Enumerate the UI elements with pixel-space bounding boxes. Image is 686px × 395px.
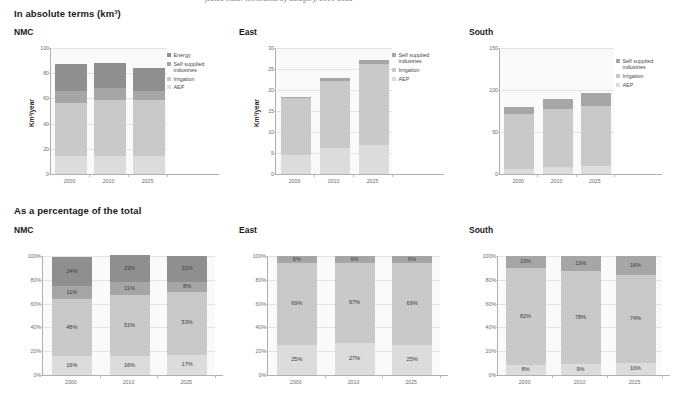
bar-segment-self-supplied-industries[interactable] (320, 78, 350, 81)
bar-segment-aep[interactable] (94, 156, 126, 174)
bar-segment-irrigation[interactable]: 53% (167, 292, 207, 355)
bar-segment-aep[interactable] (320, 148, 350, 174)
bar-2025[interactable] (359, 60, 389, 174)
bar-segment-self-supplied-industries[interactable]: 10% (506, 256, 546, 268)
x-axis-tick-label: 2010 (328, 178, 340, 184)
bar-segment-self-supplied-industries[interactable]: 13% (561, 256, 601, 271)
bar-2010[interactable] (543, 99, 573, 174)
bar-segment-irrigation[interactable] (281, 98, 311, 154)
bar-segment-self-supplied-industries[interactable] (359, 60, 389, 64)
y-axis-tick-mark (496, 256, 499, 257)
bar-segment-energy[interactable]: 22% (167, 256, 207, 282)
bar-segment-self-supplied-industries[interactable]: 6% (335, 256, 375, 263)
bar-segment-aep[interactable]: 10% (616, 363, 656, 375)
bar-segment-aep[interactable]: 25% (392, 345, 432, 375)
bar-segment-self-supplied-industries[interactable]: 11% (110, 282, 150, 295)
y-axis-tick-mark (498, 90, 501, 91)
bar-2000[interactable]: 16%48%11%24% (52, 257, 92, 375)
bar-segment-energy[interactable] (55, 64, 87, 92)
x-axis-tick-mark (607, 375, 608, 378)
legend-item-aep[interactable]: AEP (167, 84, 214, 90)
bar-segment-irrigation[interactable]: 69% (277, 263, 317, 345)
x-axis-tick-label: 2010 (123, 379, 135, 385)
bar-segment-self-supplied-industries[interactable] (543, 99, 573, 109)
bar-segment-aep[interactable]: 9% (561, 364, 601, 375)
bar-segment-self-supplied-industries[interactable]: 11% (52, 286, 92, 299)
bar-segment-irrigation[interactable] (581, 106, 611, 166)
bar-2010[interactable]: 16%51%11%23% (110, 255, 150, 375)
bar-segment-aep[interactable]: 16% (52, 356, 92, 375)
bar-2025[interactable] (133, 68, 165, 174)
bar-segment-energy[interactable] (94, 63, 126, 88)
bar-segment-self-supplied-industries[interactable] (504, 107, 534, 114)
bar-segment-irrigation[interactable]: 51% (110, 295, 150, 356)
bar-segment-energy[interactable] (133, 68, 165, 91)
legend-item-self-supplied-industries[interactable]: Self supplied industries (392, 52, 439, 64)
bar-segment-value-label: 16% (124, 363, 135, 369)
legend-item-aep[interactable]: AEP (392, 76, 439, 82)
bar-segment-self-supplied-industries[interactable] (94, 88, 126, 100)
bar-segment-aep[interactable]: 8% (506, 365, 546, 375)
bar-segment-aep[interactable] (581, 166, 611, 174)
bar-2010[interactable] (94, 63, 126, 174)
bar-2000[interactable]: 8%82%10% (506, 256, 546, 375)
bar-2025[interactable]: 10%74%16% (616, 256, 656, 375)
bar-segment-irrigation[interactable]: 67% (335, 263, 375, 343)
bar-2025[interactable]: 25%69%6% (392, 256, 432, 375)
bar-segment-energy[interactable]: 24% (52, 257, 92, 286)
bar-segment-aep[interactable]: 16% (110, 356, 150, 375)
bar-segment-irrigation[interactable] (94, 100, 126, 156)
bar-segment-aep[interactable] (359, 145, 389, 174)
bar-segment-irrigation[interactable]: 74% (616, 275, 656, 363)
bar-segment-energy[interactable]: 23% (110, 255, 150, 282)
bar-segment-aep[interactable]: 25% (277, 345, 317, 375)
bar-segment-irrigation[interactable] (133, 100, 165, 156)
bar-2010[interactable]: 27%67%6% (335, 256, 375, 375)
bar-segment-self-supplied-industries[interactable] (55, 91, 87, 103)
legend-item-energy[interactable]: Energy (167, 52, 214, 58)
bar-segment-irrigation[interactable]: 69% (392, 263, 432, 345)
bar-2025[interactable] (581, 93, 611, 174)
panel-title-east-percentage: East (239, 225, 257, 235)
x-axis-line (50, 174, 219, 175)
bar-segment-aep[interactable]: 27% (335, 343, 375, 375)
legend-item-irrigation[interactable]: Irrigation (392, 67, 439, 73)
legend-item-self-supplied-industries[interactable]: Self supplied industries (167, 61, 214, 73)
bar-2010[interactable]: 9%78%13% (561, 256, 601, 375)
x-axis-tick-mark (440, 375, 441, 378)
bar-2000[interactable]: 25%69%6% (277, 256, 317, 375)
bar-segment-self-supplied-industries[interactable]: 16% (616, 256, 656, 275)
bar-segment-irrigation[interactable] (320, 81, 350, 148)
legend-item-irrigation[interactable]: Irrigation (167, 76, 214, 82)
bar-segment-aep[interactable]: 17% (167, 355, 207, 375)
bar-2000[interactable] (504, 107, 534, 174)
bar-2025[interactable]: 17%53%8%22% (167, 256, 207, 375)
bar-2000[interactable] (281, 97, 311, 174)
bar-segment-irrigation[interactable]: 48% (52, 299, 92, 356)
bar-segment-self-supplied-industries[interactable]: 6% (277, 256, 317, 263)
legend-item-self-supplied-industries[interactable]: Self supplied industries (616, 58, 663, 70)
bar-segment-irrigation[interactable]: 78% (561, 271, 601, 364)
bar-segment-irrigation[interactable] (504, 114, 534, 169)
bar-segment-self-supplied-industries[interactable] (133, 91, 165, 100)
bar-segment-irrigation[interactable] (359, 64, 389, 146)
bar-segment-self-supplied-industries[interactable] (281, 97, 311, 99)
y-axis-tick-mark (41, 304, 44, 305)
bar-segment-self-supplied-industries[interactable]: 8% (167, 282, 207, 292)
bar-2010[interactable] (320, 78, 350, 174)
bar-segment-self-supplied-industries[interactable]: 6% (392, 256, 432, 263)
legend-item-irrigation[interactable]: Irrigation (616, 73, 663, 79)
bar-segment-aep[interactable] (133, 156, 165, 174)
bar-segment-value-label: 23% (124, 266, 135, 272)
bar-segment-irrigation[interactable] (543, 109, 573, 167)
bar-segment-irrigation[interactable] (55, 103, 87, 156)
bar-2000[interactable] (55, 64, 87, 174)
bar-segment-aep[interactable] (55, 156, 87, 174)
bar-segment-self-supplied-industries[interactable] (581, 93, 611, 106)
legend-item-aep[interactable]: AEP (616, 82, 663, 88)
bar-segment-aep[interactable] (281, 155, 311, 174)
bar-segment-irrigation[interactable]: 82% (506, 268, 546, 366)
bar-segment-aep[interactable] (543, 167, 573, 174)
legend-swatch-self-supplied-industries (392, 53, 396, 57)
x-axis-tick-label: 2000 (290, 379, 302, 385)
